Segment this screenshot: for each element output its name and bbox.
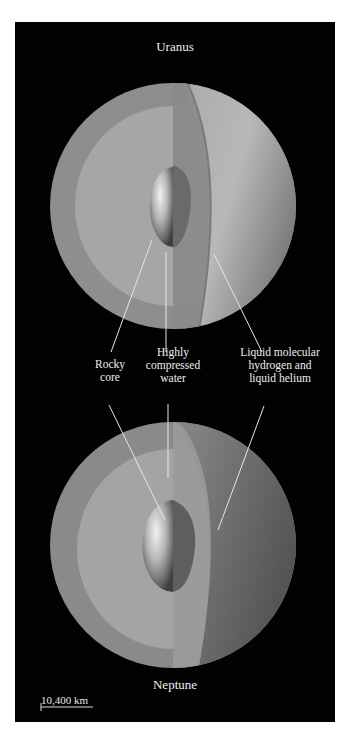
uranus-cutaway bbox=[50, 62, 315, 352]
scale-bar-label: 10,400 km bbox=[41, 694, 88, 706]
neptune-title: Neptune bbox=[15, 677, 335, 693]
neptune-cutaway bbox=[50, 420, 315, 672]
diagram-panel: Uranus bbox=[15, 22, 335, 722]
label-compressed-water: Highly compressed water bbox=[133, 346, 213, 385]
label-liquid-hydrogen-helium: Liquid molecular hydrogen and liquid hel… bbox=[225, 346, 335, 385]
